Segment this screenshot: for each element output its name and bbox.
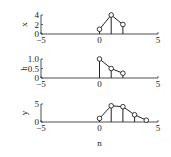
stem-marker [109,66,114,71]
x-tick-label: −5 [36,123,46,133]
stem-marker [144,118,149,123]
x-tick-label: 5 [156,123,161,133]
subplot-h: 00.51.0−505h [19,54,161,89]
x-tick-label: 5 [156,35,161,45]
y-tick-label: 1.0 [28,54,40,64]
y-axis-label: x [19,22,29,27]
y-axis-label: y [19,110,29,115]
y-tick-label: 4 [35,10,40,20]
stem-plot-figure: 024−505x00.51.0−505h05−505yn [0,0,171,157]
stem-marker [132,113,137,118]
x-tick-label: 0 [97,79,102,89]
stem-marker [109,104,114,109]
stem-marker [97,57,102,62]
y-tick-label: 0.5 [28,64,40,74]
stem-marker [121,22,126,27]
stem-marker [97,27,102,32]
x-tick-label: 0 [97,123,102,133]
y-axis-label: h [19,66,29,71]
x-tick-label: −5 [36,35,46,45]
stem-marker [121,104,126,109]
x-axis-label: n [97,138,102,148]
subplot-y: 05−505yn [19,99,161,148]
stem-marker [109,13,114,18]
x-tick-label: 5 [156,79,161,89]
y-tick-label: 2 [35,20,40,30]
subplot-x: 024−505x [19,10,161,45]
stem-marker [121,71,126,76]
stem-marker [97,116,102,121]
x-tick-label: −5 [36,79,46,89]
y-tick-label: 5 [35,99,40,109]
x-tick-label: 0 [97,35,102,45]
